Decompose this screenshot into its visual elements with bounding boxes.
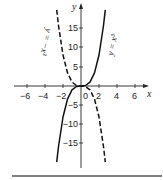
y-tick-label: 5 [73,62,78,72]
x-tick-label: 4 [114,91,119,101]
y-tick-label: −15 [63,138,78,148]
x-tick-label: 2 [96,91,101,101]
y-tick-label: 10 [68,42,78,52]
x-tick-labels: −6 −4 −2 0 2 4 6 [20,91,137,101]
y-tick-label: −5 [68,100,78,110]
x-axis-label: x [146,88,152,99]
x-tick-label: 0 [83,91,88,101]
cubic-functions-chart: x y −6 −4 −2 0 2 4 6 15 10 5 −5 −10 −15 [0,0,163,180]
x-tick-label: −2 [56,91,66,101]
x-tick-label: −6 [20,91,30,101]
y-axis-label: y [71,1,77,12]
x-tick-label: −4 [38,91,48,101]
label-y-equals-x-cubed: y = x³ [105,33,119,57]
y-tick-label: 15 [68,23,78,33]
label-y-equals-neg-x-cubed: y = −x³ [38,27,54,57]
y-axis-arrow-icon [79,3,83,9]
y-tick-label: −10 [63,119,78,129]
x-tick-label: 6 [132,91,137,101]
